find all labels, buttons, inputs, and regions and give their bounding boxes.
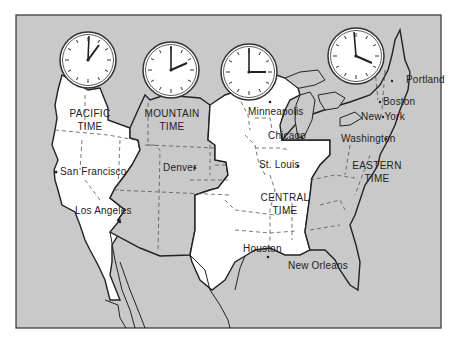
city-label-st-louis: St. Louis (259, 160, 300, 170)
clock-central (221, 44, 277, 100)
city-label-san-francisco: San Francisco (60, 167, 127, 177)
city-label-minneapolis: Minneapolis (248, 107, 304, 117)
zone-label-pacific: PACIFIC TIME (64, 108, 116, 133)
clock-eastern (328, 28, 384, 84)
city-label-new-orleans: New Orleans (288, 261, 348, 271)
zone-label-mountain: MOUNTAIN TIME (143, 108, 201, 133)
zone-suffix: TIME (258, 205, 312, 218)
city-label-chicago: Chicago (268, 131, 306, 141)
zone-name: EASTERN (350, 160, 404, 173)
zone-name: MOUNTAIN (143, 108, 201, 121)
clock-pacific (60, 32, 116, 88)
zone-suffix: TIME (350, 173, 404, 186)
zone-suffix: TIME (64, 121, 116, 134)
zone-suffix: TIME (143, 121, 201, 134)
city-label-portland: Portland (406, 75, 445, 85)
zone-name: CENTRAL (258, 192, 312, 205)
city-label-houston: Houston (243, 244, 282, 254)
zone-name: PACIFIC (64, 108, 116, 121)
city-label-denver: Denver (163, 163, 196, 173)
city-label-new-york: New York (361, 112, 405, 122)
zone-label-central: CENTRAL TIME (258, 192, 312, 217)
clock-mountain (143, 42, 199, 98)
city-label-los-angeles: Los Angeles (75, 206, 132, 216)
city-label-boston: Boston (383, 97, 415, 107)
city-label-washington: Washington (341, 134, 395, 144)
zone-label-eastern: EASTERN TIME (350, 160, 404, 185)
